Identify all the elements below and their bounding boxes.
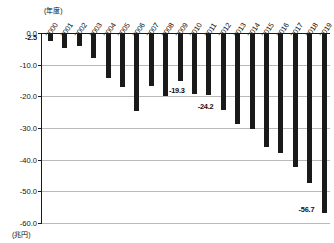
bar [250, 33, 255, 129]
bar [149, 33, 154, 86]
data-value-label: -2.5 [25, 33, 37, 42]
y-tick-mark [38, 223, 42, 224]
y-tick-mark [38, 65, 42, 66]
data-value-label: -56.7 [299, 205, 315, 214]
bar [106, 33, 111, 78]
bar-chart: (年度) (兆円) 0.0-10.0-20.0-30.0-40.0-50.0-6… [0, 0, 334, 243]
y-tick-mark [38, 96, 42, 97]
gridline [42, 33, 330, 34]
y-tick-mark [38, 128, 42, 129]
gridline [42, 160, 330, 161]
bar [278, 33, 283, 153]
bar [134, 33, 139, 111]
y-tick-mark [38, 191, 42, 192]
x-axis-unit-label: (年度) [44, 5, 63, 15]
gridline [42, 96, 330, 97]
bar [163, 33, 168, 96]
y-tick-mark [38, 160, 42, 161]
bar [120, 33, 125, 87]
y-tick-label: -10.0 [0, 60, 37, 69]
y-tick-label: -30.0 [0, 124, 37, 133]
gridline [42, 223, 330, 224]
gridline [42, 65, 330, 66]
bar [62, 33, 67, 48]
bar [221, 33, 226, 110]
y-axis-unit-label: (兆円) [12, 229, 31, 239]
gridline [42, 128, 330, 129]
y-tick-label: -40.0 [0, 155, 37, 164]
data-value-label: -24.2 [198, 102, 214, 111]
bar [192, 33, 197, 94]
bar [48, 33, 53, 41]
bar [178, 33, 183, 81]
bar [235, 33, 240, 124]
bar [264, 33, 269, 147]
bar [307, 33, 312, 183]
data-value-label: -19.3 [169, 86, 185, 95]
bar [293, 33, 298, 167]
bar [91, 33, 96, 58]
y-tick-label: -20.0 [0, 92, 37, 101]
gridline [42, 191, 330, 192]
bar [322, 33, 327, 213]
bar [206, 33, 211, 95]
bar [77, 33, 82, 46]
y-tick-mark [38, 33, 42, 34]
y-tick-label: -50.0 [0, 187, 37, 196]
y-tick-label: -60.0 [0, 219, 37, 228]
plot-area [41, 33, 329, 223]
